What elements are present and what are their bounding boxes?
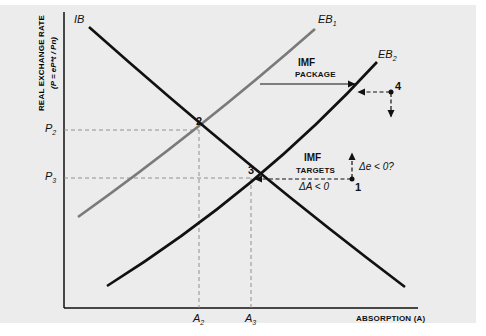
imf-package-subtitle: PACKAGE [295, 70, 336, 79]
imf-targets-subtitle: TARGETS [296, 166, 335, 175]
point-4-dot [389, 90, 394, 95]
imf-targets-title: IMF [304, 152, 321, 163]
x-tick-a3: A3 [245, 312, 256, 326]
x-axis-title: ABSORPTION (A) [356, 314, 425, 323]
point-4-label: 4 [395, 80, 401, 92]
y-axis-title: REAL EXCHANGE RATE (P = eP*t / Pn) [36, 8, 76, 118]
point-1-label: 1 [355, 181, 361, 193]
eb2-curve [107, 62, 377, 286]
y-tick-p2: P2 [45, 122, 56, 136]
imf-package-title: IMF [298, 57, 315, 68]
point-1-dot [350, 177, 355, 182]
delta-a-label: ΔA < 0 [299, 181, 329, 192]
delta-e-label: Δe < 0? [359, 161, 394, 172]
x-tick-a2: A2 [193, 312, 204, 326]
ib-curve [89, 27, 405, 287]
eb1-label: EB1 [318, 13, 337, 27]
eb2-label: EB2 [378, 48, 397, 62]
y-tick-p3: P3 [45, 170, 56, 184]
ib-label: IB [74, 13, 84, 25]
point-3-label: 3 [248, 164, 254, 176]
point-2-label: 2 [196, 115, 202, 127]
y-axis-title-line2: (P = eP*t / Pn) [48, 8, 60, 118]
y-axis-title-line1: REAL EXCHANGE RATE [36, 8, 48, 118]
